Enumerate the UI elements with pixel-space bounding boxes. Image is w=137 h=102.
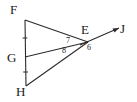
segment-HE: [26, 42, 88, 86]
geometry-figure: F G H E J 7 8 6: [0, 0, 137, 102]
angle-label-8: 8: [62, 47, 66, 55]
vertex-label-H: H: [16, 85, 25, 98]
vertex-label-F: F: [10, 3, 17, 16]
angle-label-7: 7: [66, 37, 70, 45]
segment-GE: [25, 42, 88, 57]
vertex-label-E: E: [81, 23, 89, 36]
vertex-label-G: G: [7, 51, 16, 64]
segment-FE: [25, 20, 88, 42]
angle-label-6: 6: [87, 44, 91, 52]
arrowhead-J-icon: [113, 28, 120, 33]
vertex-label-J: J: [120, 22, 125, 35]
segment-FH: [25, 20, 26, 86]
